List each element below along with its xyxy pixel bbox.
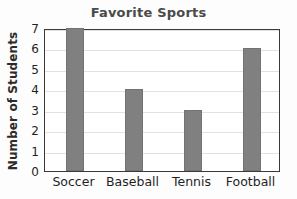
y-tick-label: 0	[31, 166, 39, 178]
bar	[184, 110, 202, 171]
plot-area	[44, 29, 280, 172]
bar	[243, 48, 261, 171]
y-tick-label: 1	[31, 146, 39, 158]
y-tick-label: 2	[31, 125, 39, 137]
x-axis-tick-labels: SoccerBaseballTennisFootball	[44, 174, 280, 196]
y-tick-label: 5	[31, 64, 39, 76]
x-tick-label: Football	[226, 174, 275, 189]
x-tick-label: Soccer	[52, 174, 94, 189]
chart-title: Favorite Sports	[0, 5, 297, 20]
bar	[66, 28, 84, 171]
x-tick-label: Baseball	[106, 174, 159, 189]
y-axis-title: Number of Students	[6, 31, 20, 169]
y-axis-tick-labels: 01234567	[20, 29, 42, 172]
y-tick-label: 4	[31, 84, 39, 96]
bar-chart-figure: Favorite Sports Number of Students 01234…	[0, 0, 297, 199]
bar-series	[45, 30, 279, 171]
y-tick-label: 3	[31, 105, 39, 117]
bar	[125, 89, 143, 171]
y-tick-label: 7	[31, 23, 39, 35]
x-tick-label: Tennis	[172, 174, 211, 189]
y-tick-label: 6	[31, 43, 39, 55]
